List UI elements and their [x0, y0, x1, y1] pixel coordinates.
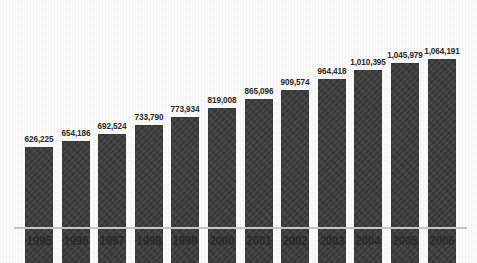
bar-value-label: 692,524 [98, 121, 127, 131]
x-axis-tick-label: 1998 [129, 234, 168, 247]
plot-area: 626,2251995654,1861996692,5241997733,790… [0, 0, 477, 263]
x-axis-tick-label: 1996 [56, 234, 95, 247]
x-axis-tick-label: 2005 [386, 234, 425, 247]
bar-value-label: 909,574 [281, 77, 310, 87]
x-axis-tick-label: 2001 [239, 234, 278, 247]
bar-value-label: 865,096 [244, 86, 273, 96]
bar-value-label: 1,064,191 [424, 46, 460, 56]
bar-value-label: 773,934 [171, 104, 200, 114]
x-axis-tick-label: 1995 [20, 234, 59, 247]
bar-value-label: 819,008 [208, 95, 237, 105]
bar-value-label: 733,790 [134, 112, 163, 122]
x-axis-tick-label: 1999 [166, 234, 205, 247]
x-axis-tick-label: 2004 [349, 234, 388, 247]
x-axis-tick-label: 2002 [276, 234, 315, 247]
bar-value-label: 964,418 [317, 66, 346, 76]
bar-value-label: 1,045,979 [387, 50, 423, 60]
x-axis-tick-label: 1997 [93, 234, 132, 247]
x-axis-tick-label: 2003 [312, 234, 351, 247]
bar-value-label: 626,225 [25, 134, 54, 144]
bar-value-label: 654,186 [61, 128, 90, 138]
x-axis-tick-label: 2006 [422, 234, 461, 247]
bar-value-label: 1,010,395 [351, 57, 387, 67]
bar-chart: 626,2251995654,1861996692,5241997733,790… [0, 0, 477, 263]
x-axis-tick-label: 2000 [203, 234, 242, 247]
x-axis-line [14, 227, 467, 229]
